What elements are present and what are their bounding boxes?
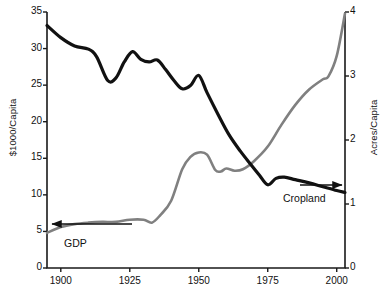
series-label-gdp: GDP	[64, 237, 87, 249]
series-label-cropland: Cropland	[283, 192, 326, 204]
series-line-cropland	[47, 25, 345, 192]
chart-container: $1000/Capita Acres/Capita 05101520253035…	[0, 0, 385, 302]
annotation-arrows	[52, 185, 342, 224]
plot-area	[0, 0, 385, 302]
